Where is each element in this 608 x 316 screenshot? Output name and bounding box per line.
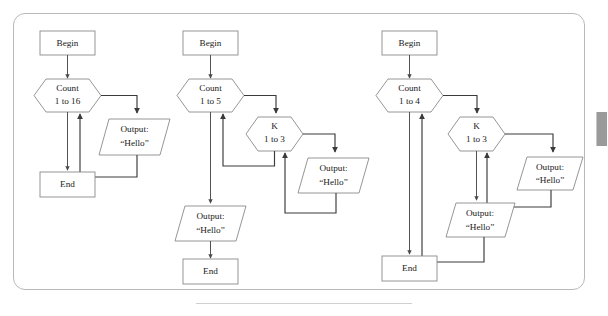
fc3-k-range: 1 to 3 <box>466 134 487 144</box>
fc3-output-inner-line2: “Hello” <box>536 175 565 185</box>
fc3-conn-k-to-output <box>505 134 553 152</box>
fc2-count-label: Count <box>199 83 222 93</box>
figure-page: Begin Count 1 to 16 Output: “Hello” End … <box>0 0 608 316</box>
fc1-output-line1: Output: <box>120 124 148 134</box>
fc2-output-after-line2: “Hello” <box>196 225 225 235</box>
fc1-output-line2: “Hello” <box>120 138 149 148</box>
fc2-k-range: 1 to 3 <box>264 134 285 144</box>
fc2-count-range: 1 to 5 <box>200 96 221 106</box>
fc2-k-label: K <box>271 121 278 131</box>
fc1-count-range: 1 to 16 <box>55 96 81 106</box>
fc2-conn-count-to-k <box>244 96 276 114</box>
bottom-divider <box>196 303 412 304</box>
fc1-begin-label: Begin <box>57 38 79 48</box>
fc2-end-label: End <box>203 266 218 276</box>
fc1-conn-count-to-output <box>101 96 137 114</box>
flowchart-diagram: Begin Count 1 to 16 Output: “Hello” End … <box>0 0 608 316</box>
flowchart-2: Begin Count 1 to 5 K 1 to 3 Output: “Hel… <box>175 31 369 284</box>
fc3-k-label: K <box>473 121 480 131</box>
fc3-begin-label: Begin <box>399 38 421 48</box>
fc2-output-inner-line1: Output: <box>319 163 347 173</box>
fc3-count-label: Count <box>398 83 421 93</box>
fc3-conn-count-to-k <box>443 96 477 114</box>
fc3-end-label: End <box>402 263 417 273</box>
fc3-output-inner-line1: Output: <box>536 162 564 172</box>
flowchart-1: Begin Count 1 to 16 Output: “Hello” End <box>34 31 170 197</box>
fc2-output-inner-line2: “Hello” <box>319 177 348 187</box>
fc1-end-label: End <box>60 179 75 189</box>
fc3-output-outer-line1: Output: <box>466 208 494 218</box>
scrollbar-thumb[interactable] <box>596 112 607 146</box>
fc2-conn-k-to-output <box>303 134 335 152</box>
fc3-count-range: 1 to 4 <box>399 96 420 106</box>
fc2-output-after-line1: Output: <box>196 211 224 221</box>
flowchart-3: Begin Count 1 to 4 K 1 to 3 Output: “Hel… <box>376 31 583 281</box>
fc1-count-label: Count <box>56 83 79 93</box>
fc2-begin-label: Begin <box>200 38 222 48</box>
fc3-output-outer-line2: “Hello” <box>466 222 495 232</box>
